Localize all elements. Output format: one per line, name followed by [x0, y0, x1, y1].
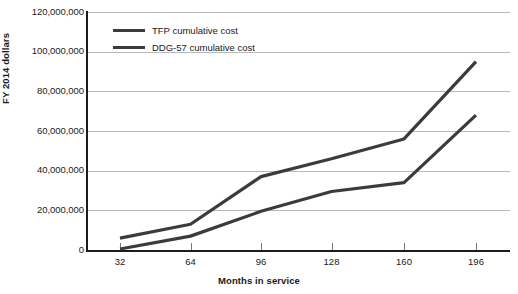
series-line-tfp [120, 62, 476, 239]
legend-label-tfp: TFP cumulative cost [152, 25, 238, 36]
legend-item-ddg57: DDG-57 cumulative cost [113, 39, 313, 56]
x-axis-title: Months in service [0, 275, 518, 286]
legend-swatch-tfp [113, 29, 145, 32]
legend: TFP cumulative cost DDG-57 cumulative co… [113, 22, 313, 56]
legend-swatch-ddg57 [113, 46, 145, 49]
legend-item-tfp: TFP cumulative cost [113, 22, 313, 39]
legend-label-ddg57: DDG-57 cumulative cost [152, 42, 255, 53]
chart-screenshot: FY 2014 dollars 020,000,00040,000,00060,… [0, 0, 518, 294]
